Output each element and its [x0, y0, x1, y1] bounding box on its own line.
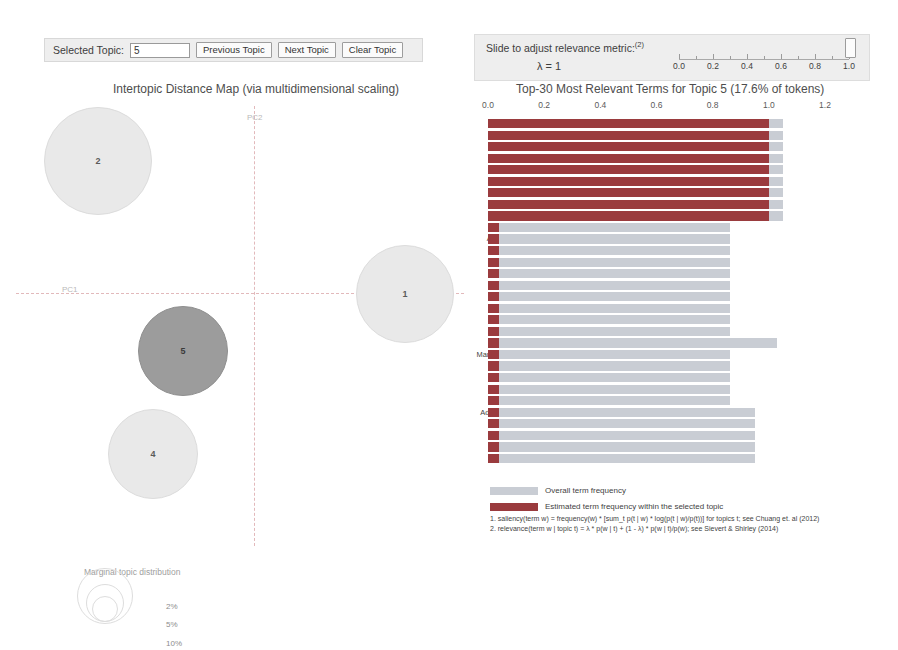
term-row[interactable]: Supervision — [466, 187, 890, 199]
previous-topic-button[interactable]: Previous Topic — [196, 42, 272, 58]
bar-overall-frequency — [488, 304, 730, 313]
bar-topic-frequency — [488, 361, 499, 370]
bar-overall-frequency — [488, 454, 755, 463]
slider-ticklabel-4: 0.8 — [809, 61, 821, 71]
bar-overall-frequency — [488, 269, 730, 278]
barchart-footnotes: 1. saliency(term w) = frequency(w) * [su… — [490, 514, 890, 534]
slider-tick-3 — [781, 54, 782, 59]
topic-bubble-5[interactable]: 5 — [138, 306, 228, 396]
slider-tick-minor-1 — [696, 56, 697, 59]
topic-bubble-4[interactable]: 4 — [108, 409, 198, 499]
topic-bubble-1[interactable]: 1 — [356, 245, 454, 343]
term-row[interactable]: water-quantity — [466, 199, 890, 211]
bar-overall-frequency — [488, 408, 755, 417]
barchart-xtick-4: 0.8 — [707, 100, 719, 110]
relevance-slider-track[interactable]: 0.0 0.2 0.4 0.6 0.8 1.0 — [679, 39, 849, 77]
term-row[interactable]: Quality — [466, 360, 890, 372]
bar-topic-frequency — [488, 396, 499, 405]
term-row[interactable]: Autonomous-regions — [466, 233, 890, 245]
term-bar-zone — [488, 408, 825, 417]
bar-topic-frequency — [488, 188, 769, 197]
selected-topic-input[interactable] — [130, 43, 190, 58]
term-row[interactable]: ManagementInstitutions — [466, 349, 890, 361]
slider-ticklabel-5: 1.0 — [843, 61, 855, 71]
bar-topic-frequency — [488, 315, 499, 324]
selected-topic-label: Selected Topic: — [53, 44, 124, 56]
term-row[interactable]: Requirements — [466, 372, 890, 384]
term-row[interactable]: Production — [466, 141, 890, 153]
term-bar-zone — [488, 292, 825, 301]
barchart-xtick-5: 1.0 — [763, 100, 775, 110]
term-row[interactable]: Water-resources — [466, 395, 890, 407]
term-row[interactable]: Administration-License — [466, 407, 890, 419]
next-topic-button[interactable]: Next Topic — [278, 42, 336, 58]
term-row[interactable]: Municipalities — [466, 210, 890, 222]
footnote-relevance: 2. relevance(term w | topic t) = λ * p(w… — [490, 524, 890, 534]
relevance-slider-handle[interactable] — [845, 38, 856, 58]
term-row[interactable]: Safety — [466, 153, 890, 165]
slider-axis-line — [679, 59, 849, 60]
term-row[interactable]: Reservoir — [466, 384, 890, 396]
topic-bubble-label: 5 — [180, 346, 185, 356]
legend-label-overall: Overall term frequency — [545, 486, 626, 495]
bar-topic-frequency — [488, 165, 769, 174]
bar-topic-frequency — [488, 442, 499, 451]
bar-topic-frequency — [488, 304, 499, 313]
term-row[interactable]: decision — [466, 280, 890, 292]
topic-bubble-label: 2 — [95, 156, 100, 166]
term-bar-zone — [488, 200, 825, 209]
barchart-xtick-6: 1.2 — [819, 100, 831, 110]
bar-topic-frequency — [488, 350, 499, 359]
term-row[interactable]: Flood-defense — [466, 326, 890, 338]
bar-overall-frequency — [488, 327, 730, 336]
term-bar-zone — [488, 269, 825, 278]
term-row[interactable]: Fine — [466, 441, 890, 453]
term-row[interactable]: Dispatch — [466, 291, 890, 303]
bar-overall-frequency — [488, 350, 730, 359]
term-bar-zone — [488, 361, 825, 370]
bar-topic-frequency — [488, 269, 499, 278]
legend-swatch-overall — [490, 487, 538, 495]
bar-topic-frequency — [488, 246, 499, 255]
term-row[interactable]: Fetchwater — [466, 337, 890, 349]
term-bar-zone — [488, 177, 825, 186]
bar-topic-frequency — [488, 338, 499, 347]
term-row[interactable]: Planning — [466, 130, 890, 142]
term-bar-zone — [488, 327, 825, 336]
term-barchart-panel: 0.00.20.40.60.81.01.2 ApprovalPlanningPr… — [466, 100, 890, 570]
clear-topic-button[interactable]: Clear Topic — [342, 42, 403, 58]
term-row[interactable]: Data — [466, 268, 890, 280]
mds-vertical-axis — [254, 106, 255, 546]
term-row[interactable]: Hearing — [466, 453, 890, 465]
term-row[interactable]: Construction — [466, 418, 890, 430]
term-row[interactable]: Solution — [466, 176, 890, 188]
term-row[interactable]: Approval — [466, 118, 890, 130]
bar-topic-frequency — [488, 119, 769, 128]
legend-swatch-topic — [490, 503, 538, 511]
term-bar-zone — [488, 442, 825, 451]
bar-topic-frequency — [488, 419, 499, 428]
barchart-xtick-2: 0.4 — [594, 100, 606, 110]
bar-topic-frequency — [488, 131, 769, 140]
term-bar-zone — [488, 350, 825, 359]
bar-topic-frequency — [488, 223, 499, 232]
mds-panel-title: Intertopic Distance Map (via multidimens… — [113, 82, 399, 96]
term-row[interactable]: Authorities — [466, 222, 890, 234]
term-row[interactable]: Construction-Project — [466, 245, 890, 257]
barchart-rows: ApprovalPlanningProductionSafetySchemeSo… — [466, 118, 890, 464]
term-row[interactable]: Enacted — [466, 303, 890, 315]
bar-overall-frequency — [488, 385, 730, 394]
bar-overall-frequency — [488, 292, 730, 301]
term-row[interactable]: Scheme — [466, 164, 890, 176]
term-row[interactable]: Department — [466, 430, 890, 442]
term-bar-zone — [488, 373, 825, 382]
topic-bubble-2[interactable]: 2 — [44, 107, 152, 215]
term-bar-zone — [488, 246, 825, 255]
term-row[interactable]: Flood-control — [466, 314, 890, 326]
barchart-xtick-1: 0.2 — [538, 100, 550, 110]
bar-overall-frequency — [488, 246, 730, 255]
topic-bubble-label: 4 — [150, 449, 155, 459]
term-row[interactable]: County — [466, 257, 890, 269]
bar-overall-frequency — [488, 442, 755, 451]
